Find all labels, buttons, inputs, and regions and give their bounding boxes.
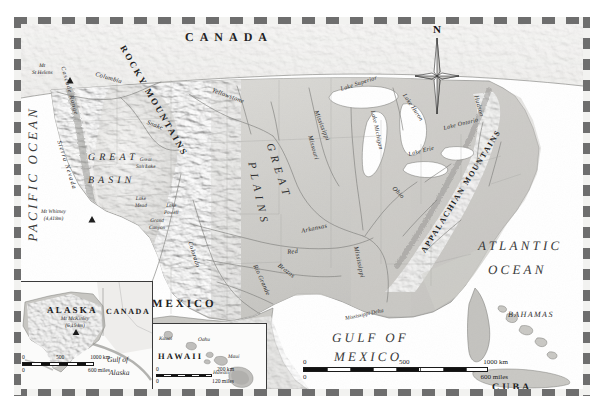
ak-km-tick-1000: 1000 km: [90, 354, 110, 360]
ak-km-tick-500: 500: [56, 354, 64, 360]
island-kauai: [164, 331, 173, 339]
main-scalebar-km-ticks: 0 500 1000 km: [303, 358, 508, 367]
hi-mi-tick-120: 120 miles: [212, 378, 234, 384]
main-km-tick-0: 0: [303, 358, 307, 366]
hawaii-scalebar-bar: [156, 374, 212, 377]
alaska-scalebar-km-ticks: 0 500 1000 km: [22, 354, 110, 362]
hawaii-scalebar: 0 200 km 0 120 miles: [156, 366, 234, 386]
neatline-top: [14, 17, 590, 24]
island-molokai: [206, 352, 213, 357]
hawaii-scalebar-miles-ticks: 0 120 miles: [156, 378, 234, 386]
hi-km-tick-200: 200 km: [217, 366, 234, 372]
hawaii-scalebar-km-ticks: 0 200 km: [156, 366, 234, 374]
hi-mi-tick-0: 0: [156, 378, 159, 384]
compass-north-label: N: [433, 23, 441, 35]
main-scalebar: 0 500 1000 km 0 600 miles: [303, 358, 508, 382]
alaska-scalebar-bar: [22, 362, 94, 366]
inset-alaska[interactable]: ALASKA CANADA Mt McKinley (6,194m) Gulf …: [18, 281, 153, 391]
island-lanai: [204, 360, 210, 364]
alaska-scalebar-miles-ticks: 0 600 miles: [22, 367, 110, 375]
map-root: PACIFIC OCEAN CANADA ATLANTIC OCEAN GULF…: [0, 0, 604, 417]
neatline-right: [583, 17, 590, 396]
main-scalebar-miles-ticks: 0 600 miles: [303, 373, 508, 382]
hi-km-tick-0: 0: [156, 366, 159, 372]
island-oahu: [186, 342, 196, 350]
ak-km-tick-0: 0: [22, 354, 25, 360]
ak-mi-tick-600: 600 miles: [88, 367, 110, 373]
alaska-inset-relief: [19, 282, 153, 391]
main-mi-tick-0: 0: [303, 373, 307, 381]
compass-rose: N: [414, 24, 460, 116]
ak-mi-tick-0: 0: [22, 367, 25, 373]
inset-hawaii[interactable]: HAWAII Kauai Oahu Maui Hawaii 0 200 km 0…: [152, 323, 267, 391]
main-km-tick-1000: 1000 km: [483, 358, 508, 366]
main-mi-tick-600: 600 miles: [481, 373, 508, 381]
compass-needle: [414, 36, 460, 128]
main-scalebar-bar: [303, 367, 488, 372]
main-km-tick-500: 500: [399, 358, 410, 366]
alaska-scalebar: 0 500 1000 km 0 600 miles: [22, 354, 110, 375]
